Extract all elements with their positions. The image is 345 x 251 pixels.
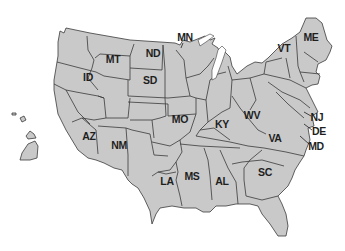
state-label-vt: VT	[278, 42, 291, 54]
state-label-de: DE	[312, 125, 326, 137]
state-label-nd: ND	[146, 47, 161, 59]
hawaii-kauai	[12, 113, 16, 115]
state-label-mn: MN	[177, 31, 193, 43]
state-label-la: LA	[160, 175, 173, 187]
state-label-ms: MS	[184, 170, 199, 182]
state-label-me: ME	[303, 31, 318, 43]
state-label-az: AZ	[82, 130, 95, 142]
state-label-va: VA	[268, 132, 281, 144]
state-label-ky: KY	[215, 118, 229, 130]
hawaii-oahu	[20, 116, 26, 122]
state-label-mt: MT	[106, 53, 121, 65]
state-label-mo: MO	[172, 113, 188, 125]
state-label-nj: NJ	[311, 111, 324, 123]
state-label-wv: WV	[244, 109, 260, 121]
hawaii-maui	[26, 131, 36, 139]
us-map	[0, 0, 345, 251]
state-label-sc: SC	[258, 166, 272, 178]
hawaii-big-island	[20, 141, 38, 160]
state-label-al: AL	[215, 175, 228, 187]
state-label-id: ID	[83, 71, 93, 83]
state-label-sd: SD	[143, 74, 157, 86]
state-label-nm: NM	[111, 139, 127, 151]
state-label-md: MD	[308, 140, 324, 152]
